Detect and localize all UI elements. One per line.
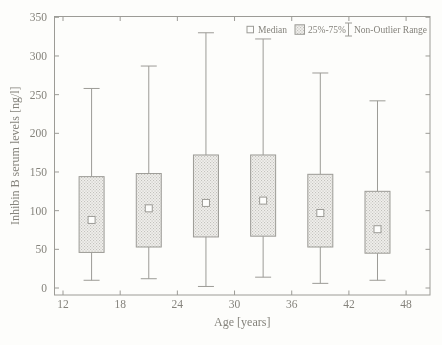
inhibin-b-boxplot-chart: 12182430364248050100150200250300350Age [… (0, 0, 442, 345)
iqr-box (193, 155, 218, 237)
median-marker (317, 209, 324, 216)
iqr-box (79, 177, 104, 253)
boxplot-figure: 12182430364248050100150200250300350Age [… (0, 0, 442, 345)
median-marker (202, 199, 209, 206)
median-marker (260, 197, 267, 204)
x-tick-label: 30 (229, 298, 241, 310)
x-tick-label: 42 (343, 298, 355, 310)
y-tick-label: 250 (30, 89, 48, 101)
figure-background (0, 0, 442, 345)
x-tick-label: 36 (286, 298, 298, 310)
legend-box-label: 25%-75% (308, 25, 346, 35)
median-marker (145, 205, 152, 212)
legend-range-label: Non-Outlier Range (354, 25, 427, 35)
y-tick-label: 350 (30, 11, 48, 23)
legend-median-glyph (247, 26, 254, 33)
iqr-box (251, 155, 276, 236)
y-tick-label: 300 (30, 50, 48, 62)
x-tick-label: 48 (400, 298, 412, 310)
y-tick-label: 200 (30, 127, 48, 139)
y-tick-label: 150 (30, 166, 48, 178)
median-marker (88, 216, 95, 223)
y-axis-title: Inhibin B serum levels [ng/l] (8, 86, 22, 225)
legend-box-glyph (295, 25, 305, 35)
x-tick-label: 12 (57, 298, 69, 310)
y-tick-label: 100 (30, 205, 48, 217)
x-tick-label: 18 (114, 298, 126, 310)
legend-median-label: Median (258, 25, 287, 35)
x-axis-title: Age [years] (214, 315, 270, 329)
iqr-box (365, 191, 390, 253)
legend: Median25%-75%Non-Outlier Range (247, 23, 427, 36)
y-tick-label: 0 (41, 282, 47, 294)
y-tick-label: 50 (36, 243, 48, 255)
median-marker (374, 226, 381, 233)
x-tick-label: 24 (172, 298, 184, 310)
